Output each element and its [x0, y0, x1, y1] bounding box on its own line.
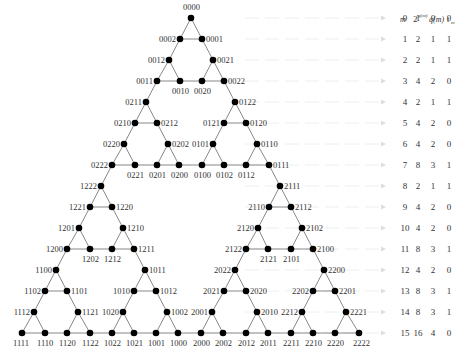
table-cell-q: 2 — [431, 139, 436, 149]
graph-node — [310, 246, 317, 253]
graph-node — [64, 288, 71, 295]
graph-node — [254, 141, 261, 148]
level-table: m 2 q(m) q(m) t m 0100121122113420421154… — [400, 13, 455, 338]
graph-edge — [180, 18, 191, 39]
graph-node — [266, 204, 273, 211]
graph-edge — [202, 60, 213, 81]
node-label: 0022 — [228, 76, 245, 86]
arrow-right-icon — [381, 268, 386, 273]
graph-node — [142, 267, 149, 274]
graph-node — [87, 246, 94, 253]
graph-node — [109, 162, 116, 169]
table-row: 11831 — [401, 244, 452, 254]
node-label: 0000 — [183, 2, 200, 12]
node-label: 1011 — [149, 265, 166, 275]
node-label: 0222 — [91, 160, 108, 170]
node-label: 1012 — [160, 286, 177, 296]
node-label: 2110 — [248, 202, 265, 212]
node-label: 1101 — [71, 286, 88, 296]
table-cell-m: 7 — [403, 160, 408, 170]
graph-node — [109, 330, 116, 337]
node-label: 0011 — [136, 76, 153, 86]
table-cell-m: 9 — [403, 202, 408, 212]
node-label: 0100 — [194, 170, 211, 180]
table-cell-q: 1 — [431, 55, 436, 65]
graph-edge — [101, 186, 112, 207]
graph-node — [220, 330, 227, 337]
table-cell-t: 1 — [447, 181, 452, 191]
node-label: 0201 — [149, 170, 166, 180]
node-label: 2221 — [350, 307, 367, 317]
graph-edge — [213, 144, 224, 165]
node-label: 1000 — [170, 338, 187, 348]
table-cell-m: 5 — [403, 118, 408, 128]
node-label: 1020 — [102, 307, 119, 317]
table-cell-q: 3 — [431, 160, 436, 170]
graph-node — [199, 36, 206, 43]
graph-node — [120, 225, 127, 232]
header-t-sub: m — [451, 20, 455, 25]
table-cell-t: 0 — [447, 13, 452, 23]
table-row: 10420 — [401, 223, 452, 233]
table-cell-pow: 2 — [416, 181, 421, 191]
graph-node — [132, 120, 139, 127]
table-row: 12420 — [401, 265, 452, 275]
graph-edge — [123, 312, 134, 333]
graph-node — [164, 309, 171, 316]
graph-node — [243, 246, 250, 253]
arrow-right-icon — [381, 121, 386, 126]
graph-node — [109, 204, 116, 211]
graph-node — [321, 267, 328, 274]
graph-edge — [191, 18, 202, 39]
table-row: 2211 — [403, 55, 452, 65]
graph-edge — [246, 144, 257, 165]
node-label: 0021 — [217, 55, 234, 65]
node-label: 2222 — [353, 338, 370, 348]
graph-node — [76, 225, 83, 232]
graph-node — [199, 162, 206, 169]
node-label: 0001 — [206, 34, 223, 44]
graph-edge — [146, 102, 157, 123]
arrow-right-icon — [381, 331, 386, 336]
graph-node — [132, 162, 139, 169]
table-cell-m: 2 — [403, 55, 408, 65]
table-cell-m: 13 — [401, 286, 411, 296]
graph-node — [121, 141, 128, 148]
node-label: 0020 — [194, 86, 211, 96]
graph-node — [255, 225, 262, 232]
table-cell-m: 0 — [403, 13, 408, 23]
table-row: 151640 — [401, 328, 452, 338]
arrow-right-icon — [381, 58, 386, 63]
graph-edge — [112, 228, 123, 249]
node-label: 2200 — [328, 265, 345, 275]
node-label: 2011 — [260, 338, 277, 348]
node-label: 2000 — [193, 338, 210, 348]
table-cell-pow: 2 — [416, 55, 421, 65]
graph-node — [175, 330, 182, 337]
table-cell-t: 0 — [447, 202, 452, 212]
table-cell-m: 14 — [401, 307, 411, 317]
node-label: 0002 — [159, 34, 176, 44]
graph-edge — [224, 102, 235, 123]
graph-edge — [258, 228, 268, 249]
graph-node — [131, 330, 138, 337]
node-label: 1222 — [80, 181, 97, 191]
graph-edge — [157, 144, 168, 165]
node-label: 2102 — [306, 223, 323, 233]
node-label: 0210 — [114, 118, 131, 128]
node-label: 1010 — [113, 286, 130, 296]
graph-node — [31, 309, 38, 316]
node-label: 2201 — [339, 286, 356, 296]
node-label: 2111 — [284, 181, 300, 191]
graph-node — [343, 309, 350, 316]
table-cell-q: 2 — [431, 76, 436, 86]
graph-node — [209, 309, 216, 316]
graph-edge — [34, 312, 45, 333]
arrow-right-icon — [381, 142, 386, 147]
graph-edge — [313, 270, 324, 291]
graph-node — [19, 330, 26, 337]
graph-node — [177, 36, 184, 43]
node-label: 2101 — [283, 254, 300, 264]
node-label: 1122 — [82, 338, 99, 348]
node-label: 1202 — [82, 254, 99, 264]
